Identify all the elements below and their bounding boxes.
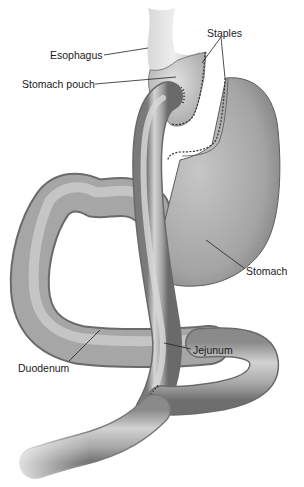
common-channel-shape [0, 410, 155, 487]
staples-leader-2 [221, 37, 225, 78]
esophagus-leader [104, 48, 148, 55]
label-staples: Staples [207, 27, 242, 39]
label-duodenum: Duodenum [18, 362, 69, 374]
label-esophagus: Esophagus [50, 49, 103, 61]
staples-leader-1 [202, 37, 221, 63]
label-stomach-pouch: Stomach pouch [22, 78, 95, 90]
gastric-bypass-diagram [0, 0, 304, 487]
label-jejunum: Jejunum [193, 344, 233, 356]
label-stomach: Stomach [246, 265, 287, 277]
